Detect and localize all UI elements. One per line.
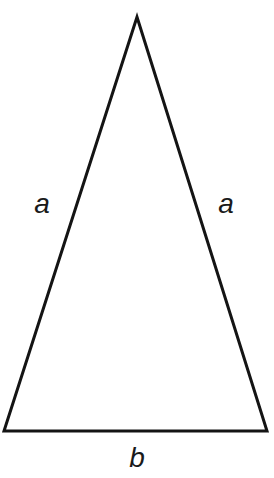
triangle-shape: [0, 0, 274, 478]
label-side-a-left: a: [28, 190, 56, 218]
triangle-diagram: a a b: [0, 0, 274, 478]
label-side-a-right: a: [212, 190, 240, 218]
label-base-b: b: [123, 444, 151, 472]
isosceles-triangle-outline: [4, 17, 267, 431]
